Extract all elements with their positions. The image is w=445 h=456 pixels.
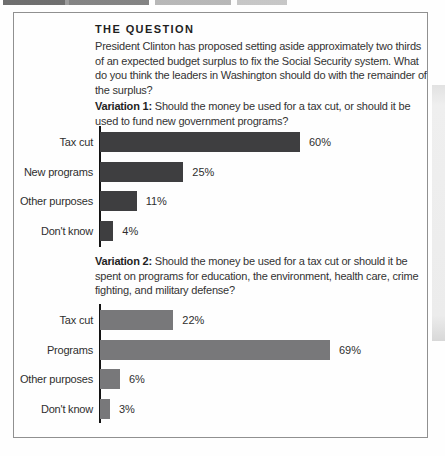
value-label: 6% bbox=[129, 369, 145, 389]
figure-box: THE QUESTION President Clinton has propo… bbox=[13, 12, 428, 438]
variation-2-chart: Tax cut22%Programs69%Other purposes6%Don… bbox=[14, 304, 427, 423]
variation-1-label: Variation 1: bbox=[95, 100, 152, 112]
category-label: Programs bbox=[14, 340, 93, 360]
category-label: Tax cut bbox=[14, 310, 93, 330]
bar bbox=[100, 310, 173, 330]
category-label: Other purposes bbox=[14, 369, 93, 389]
variation-1-text: Variation 1: Should the money be used fo… bbox=[95, 99, 427, 128]
bar bbox=[100, 340, 330, 360]
bar-row: Don't know4% bbox=[14, 221, 427, 241]
bar bbox=[100, 132, 300, 152]
cropped-text-fragment bbox=[3, 0, 287, 5]
book-page-edge bbox=[432, 85, 445, 341]
variation-2-label: Variation 2: bbox=[95, 255, 152, 267]
value-label: 60% bbox=[309, 132, 331, 152]
bar-row: Don't know3% bbox=[14, 399, 427, 419]
variation-2-text: Variation 2: Should the money be used fo… bbox=[95, 254, 427, 298]
value-label: 3% bbox=[119, 399, 135, 419]
question-header: THE QUESTION bbox=[95, 23, 194, 35]
category-label: New programs bbox=[14, 162, 93, 182]
value-label: 25% bbox=[192, 162, 214, 182]
bar-row: Other purposes6% bbox=[14, 369, 427, 389]
category-label: Other purposes bbox=[14, 191, 93, 211]
category-label: Don't know bbox=[14, 221, 93, 241]
bar-row: Tax cut60% bbox=[14, 132, 427, 152]
value-label: 4% bbox=[122, 221, 138, 241]
value-label: 69% bbox=[339, 340, 361, 360]
category-label: Don't know bbox=[14, 399, 93, 419]
category-label: Tax cut bbox=[14, 132, 93, 152]
value-label: 22% bbox=[182, 310, 204, 330]
variation-1-chart: Tax cut60%New programs25%Other purposes1… bbox=[14, 126, 427, 247]
bar bbox=[100, 221, 113, 241]
question-text: President Clinton has proposed setting a… bbox=[95, 39, 427, 97]
bar bbox=[100, 369, 120, 389]
value-label: 11% bbox=[146, 191, 167, 211]
bar bbox=[100, 191, 137, 211]
bar bbox=[100, 162, 183, 182]
bar-row: New programs25% bbox=[14, 162, 427, 182]
scanned-figure-page: THE QUESTION President Clinton has propo… bbox=[0, 0, 445, 456]
bar bbox=[100, 399, 110, 419]
bar-row: Programs69% bbox=[14, 340, 427, 360]
bar-row: Other purposes11% bbox=[14, 191, 427, 211]
bar-row: Tax cut22% bbox=[14, 310, 427, 330]
